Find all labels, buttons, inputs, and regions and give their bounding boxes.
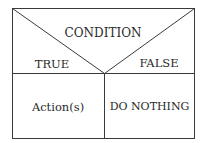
false-action-label: DO NOTHING bbox=[110, 100, 190, 113]
condition-label: CONDITION bbox=[65, 26, 142, 40]
true-label: TRUE bbox=[35, 57, 69, 71]
true-action-label: Action(s) bbox=[31, 100, 84, 114]
decision-diagram: CONDITION TRUE FALSE Action(s) DO NOTHIN… bbox=[0, 0, 210, 143]
false-label: FALSE bbox=[139, 56, 178, 70]
